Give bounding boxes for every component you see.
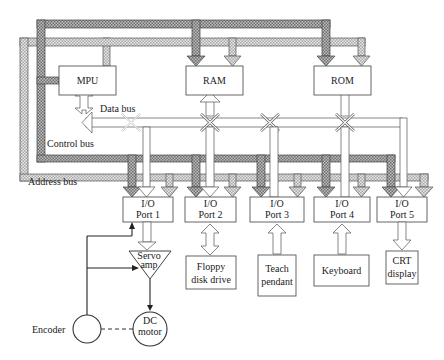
svg-text:CRT: CRT [393,255,412,266]
svg-text:I/O: I/O [204,198,217,209]
svg-text:I/O: I/O [141,198,154,209]
svg-text:motor: motor [138,326,163,337]
arrow-teach-to-port3 [268,224,286,254]
address-bus-label: Address bus [28,176,77,187]
floppy-disk-drive: Floppy disk drive [186,256,236,289]
arrow-port5-to-crt [393,222,411,250]
svg-text:Floppy: Floppy [197,261,225,272]
svg-text:Port 1: Port 1 [136,209,160,220]
svg-text:Keyboard: Keyboard [322,265,361,276]
svg-text:Port 2: Port 2 [198,209,222,220]
svg-text:Port 5: Port 5 [390,209,414,220]
control-bus-label: Control bus [47,138,94,149]
io-port-2: I/O Port 2 [185,197,236,222]
svg-text:I/O: I/O [335,198,348,209]
io-port-3: I/O Port 3 [250,197,304,222]
keyboard: Keyboard [314,255,369,286]
arrow-port2-floppy [201,224,219,255]
mpu-block: MPU [59,66,116,95]
rom-label: ROM [331,75,354,86]
svg-text:I/O: I/O [395,198,408,209]
rom-block: ROM [314,66,371,95]
svg-text:disk drive: disk drive [191,274,231,285]
encoder-label: Encoder [32,324,66,335]
svg-text:I/O: I/O [270,198,283,209]
svg-text:Port 3: Port 3 [265,209,289,220]
svg-text:Port 4: Port 4 [330,209,354,220]
io-port-5: I/O Port 5 [377,197,427,222]
crt-display: CRT display [386,251,418,284]
architecture-diagram: MPU RAM ROM Data bus Control bus Address… [0,0,444,360]
arrow-port1-to-servo [138,242,156,250]
svg-text:Teach: Teach [265,263,289,274]
mpu-label: MPU [77,75,99,86]
servo-amp: Servo amp [129,250,171,279]
address-bus [20,38,433,197]
ram-block: RAM [186,66,243,95]
svg-text:DC: DC [143,315,157,326]
io-port-4: I/O Port 4 [314,197,370,222]
svg-text:amp: amp [140,259,157,270]
encoder-feedback [87,222,139,315]
arrow-keyboard-to-port4 [333,224,351,254]
teach-pendant: Teach pendant [258,255,296,296]
dc-motor: DC motor [133,312,167,346]
encoder [73,315,101,343]
svg-text:display: display [388,268,417,279]
ram-label: RAM [203,75,226,86]
io-port-1: I/O Port 1 [123,197,173,222]
data-bus-label: Data bus [100,103,135,114]
svg-text:pendant: pendant [261,276,293,287]
